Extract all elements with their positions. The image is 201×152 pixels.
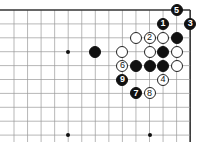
star-point: [66, 50, 70, 54]
black-stone-move-1: 1: [157, 18, 169, 30]
black-stone: [144, 60, 156, 72]
white-stone-move-8: 8: [144, 87, 156, 99]
black-stone-move-9: 9: [116, 74, 128, 86]
star-point: [148, 133, 152, 137]
black-stone: [157, 46, 169, 58]
go-board: 513269478: [0, 0, 201, 152]
white-stone-move-2: 2: [144, 32, 156, 44]
black-stone-move-3: 3: [184, 18, 196, 30]
black-stone: [157, 60, 169, 72]
black-stone: [130, 60, 142, 72]
black-stone: [171, 32, 183, 44]
black-stone: [89, 46, 101, 58]
white-stone-move-4: 4: [157, 74, 169, 86]
white-stone: [130, 32, 142, 44]
white-stone: [171, 60, 183, 72]
black-stone-move-5: 5: [171, 4, 183, 16]
white-stone: [171, 46, 183, 58]
white-stone: [144, 46, 156, 58]
board-grid: [0, 0, 201, 152]
white-stone: [116, 46, 128, 58]
white-stone: [157, 32, 169, 44]
white-stone-move-6: 6: [116, 60, 128, 72]
